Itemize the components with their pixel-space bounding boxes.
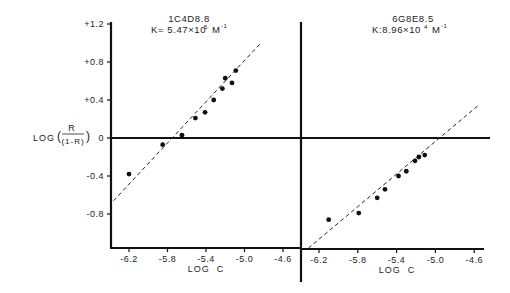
data-point — [233, 68, 238, 73]
x-tick-label: -5.0 — [236, 254, 254, 264]
svg-text:LOG: LOG — [33, 133, 55, 143]
y-tick-label: +0.4 — [84, 95, 104, 105]
data-point — [417, 155, 422, 160]
data-point — [396, 174, 401, 179]
right-panel-data — [308, 105, 479, 248]
svg-text:1C4D8.8: 1C4D8.8 — [168, 13, 210, 24]
svg-text:4: 4 — [424, 24, 428, 30]
x-tick-label: -5.8 — [349, 255, 367, 265]
y-tick-label: +1.2 — [84, 19, 104, 29]
data-point — [160, 142, 165, 147]
x-tick-label: -6.2 — [310, 255, 328, 265]
svg-text:R: R — [68, 123, 76, 133]
y-tick-label: -0.4 — [86, 171, 104, 181]
svg-text:5: 5 — [204, 24, 208, 30]
data-point — [326, 217, 331, 222]
svg-text:-1: -1 — [441, 23, 448, 29]
right-panel-title: 6G8E8.5 K:8.96×10 4 M -1 — [372, 13, 448, 35]
data-point — [413, 158, 418, 163]
data-point — [404, 169, 409, 174]
fit-line — [308, 105, 479, 248]
x-tick-label: -5.8 — [159, 254, 177, 264]
svg-text:K= 5.47×10: K= 5.47×10 — [151, 24, 206, 35]
y-axis-label: LOG ( R (1-R) ) — [33, 123, 90, 146]
x-tick-label: -5.4 — [388, 255, 406, 265]
svg-text:-1: -1 — [221, 23, 228, 29]
data-point — [356, 211, 361, 216]
svg-text:M: M — [212, 24, 221, 35]
fit-line — [114, 43, 261, 201]
data-point — [422, 153, 427, 158]
data-point — [383, 187, 388, 192]
y-axis-ticks: +1.2+0.8+0.40-0.4-0.8 — [84, 19, 111, 219]
data-point — [211, 98, 216, 103]
x-tick-label: -5.0 — [427, 255, 445, 265]
y-tick-label: 0 — [98, 133, 104, 143]
data-point — [375, 195, 380, 200]
x-axis-label-left: LOG C — [188, 264, 225, 274]
left-panel-title: 1C4D8.8 K= 5.47×10 5 M -1 — [151, 13, 228, 35]
affinity-plots: +1.2+0.8+0.40-0.4-0.8 -6.2-6.2-5.8-5.8-5… — [0, 0, 510, 293]
data-point — [193, 116, 198, 121]
left-panel-data — [114, 43, 261, 201]
svg-text:): ) — [86, 129, 90, 143]
svg-text:K:8.96×10: K:8.96×10 — [372, 24, 421, 35]
data-point — [223, 76, 228, 81]
svg-text:M: M — [432, 24, 441, 35]
svg-text:(1-R): (1-R) — [61, 137, 84, 146]
data-point — [127, 172, 132, 177]
x-tick-label: -4.6 — [274, 254, 292, 264]
x-tick-label: -5.4 — [197, 254, 215, 264]
x-tick-label: -4.6 — [465, 255, 483, 265]
data-point — [220, 86, 225, 91]
y-tick-label: -0.8 — [86, 209, 104, 219]
svg-text:6G8E8.5: 6G8E8.5 — [392, 13, 434, 24]
data-point — [203, 110, 208, 115]
data-point — [230, 81, 235, 86]
svg-text:(: ( — [57, 129, 61, 143]
y-tick-label: +0.8 — [84, 57, 104, 67]
data-point — [180, 133, 185, 138]
x-tick-label: -6.2 — [120, 254, 138, 264]
x-axis-label-right: LOG C — [379, 265, 416, 275]
left-panel-axes — [110, 22, 490, 282]
